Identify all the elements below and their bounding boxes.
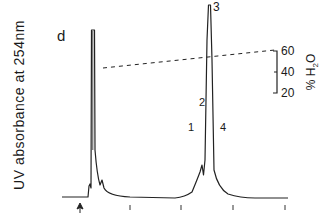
chromatogram-plot [0,0,325,219]
h2o-sub: 2 [311,63,320,67]
peak-label-4: 4 [220,121,226,133]
x-ticks [130,205,285,210]
scale-bar [273,51,277,93]
injection-arrow-icon [77,203,83,213]
scale-tick-40: 40 [281,65,294,79]
peak-label-2: 2 [199,96,205,108]
secondary-axis-label: % H2O [304,42,320,102]
scale-tick-60: 60 [281,44,294,58]
h2o-prefix: % H [304,68,318,91]
h2o-suffix: O [304,54,318,63]
uv-trace [62,5,288,198]
peak-label-3: 3 [213,0,220,14]
peak-label-1: 1 [188,121,194,133]
gradient-line [103,50,275,68]
scale-tick-20: 20 [281,86,294,100]
